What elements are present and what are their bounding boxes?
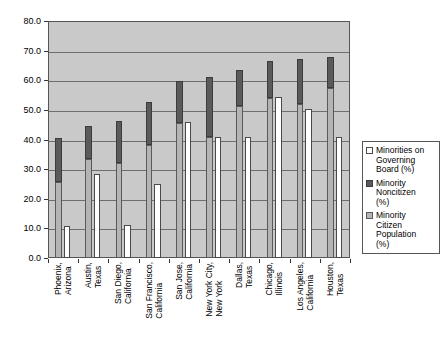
bar-minority-citizen-population (267, 98, 274, 258)
legend-label: Minority Noncitizen (%) (376, 179, 416, 208)
bar-group (229, 21, 259, 258)
y-tick-label: 50.0 (23, 106, 41, 115)
legend-label: Minority Citizen Population (%) (376, 211, 416, 249)
dark-swatch-icon (366, 180, 373, 187)
y-tick-label: 40.0 (23, 136, 41, 145)
bar-minority-noncitizen (206, 77, 213, 137)
bar-minorities-on-governing-board (185, 122, 192, 258)
x-tick-label: San Diego, California (114, 262, 133, 304)
x-tick-mark (320, 259, 321, 263)
bar-group (199, 21, 229, 258)
x-tick-label: Houston, Texas (326, 262, 345, 296)
bar-minority-citizen-population (236, 106, 243, 258)
x-tick-label: Austin, Texas (84, 262, 103, 288)
bar-group (78, 21, 108, 258)
x-tick-mark (229, 259, 230, 263)
bar-minority-noncitizen (176, 81, 183, 123)
legend-label: Minorities on Governing Board (%) (376, 146, 424, 175)
x-tick-mark (169, 259, 170, 263)
bar-minority-citizen-population (55, 182, 62, 258)
bar-minorities-on-governing-board (94, 174, 101, 258)
y-tick-label: 0.0 (28, 254, 41, 263)
gray-swatch-icon (366, 212, 373, 219)
x-tick-label: Phoenix, Arizona (54, 262, 73, 295)
bar-minorities-on-governing-board (275, 97, 282, 258)
x-tick-label: San Jose, California (175, 262, 194, 300)
bar-group (108, 21, 138, 258)
white-swatch-icon (366, 147, 373, 154)
bar-group (320, 21, 350, 258)
y-tick-label: 70.0 (23, 47, 41, 56)
y-tick-label: 30.0 (23, 165, 41, 174)
bar-minorities-on-governing-board (336, 137, 343, 258)
bar-group (48, 21, 78, 258)
x-tick-label: Dallas, Texas (235, 262, 254, 288)
bar-minorities-on-governing-board (154, 184, 161, 258)
bar-minority-citizen-population (327, 88, 334, 258)
x-tick-mark (139, 259, 140, 263)
x-tick-mark (78, 259, 79, 263)
bar-minorities-on-governing-board (124, 225, 131, 258)
y-tick-label: 80.0 (23, 17, 41, 26)
bar-group (290, 21, 320, 258)
x-tick-label: New York City, New York (205, 262, 224, 317)
y-tick-label: 10.0 (23, 224, 41, 233)
x-tick-mark (199, 259, 200, 263)
x-tick-label: San Francisco, California (145, 262, 164, 319)
bar-minority-citizen-population (85, 159, 92, 258)
y-tick-label: 60.0 (23, 76, 41, 85)
chart-legend: Minorities on Governing Board (%)Minorit… (362, 141, 440, 254)
x-axis: Phoenix, ArizonaAustin, TexasSan Diego, … (48, 259, 350, 341)
bar-minority-citizen-population (116, 163, 123, 258)
x-tick-mark (259, 259, 260, 263)
y-axis: 0.010.020.030.040.050.060.070.080.0 (0, 0, 48, 260)
bar-minority-noncitizen (146, 102, 153, 145)
bar-minority-noncitizen (297, 59, 304, 104)
x-tick-mark (48, 259, 49, 263)
bar-chart: 0.010.020.030.040.050.060.070.080.0 Phoe… (0, 0, 443, 341)
y-tick-label: 20.0 (23, 195, 41, 204)
x-tick-label: Los Angeles, California (296, 262, 315, 311)
bar-group (139, 21, 169, 258)
x-tick-label: Chicago, Illinois (265, 262, 284, 296)
bar-minority-citizen-population (297, 104, 304, 258)
bar-group (259, 21, 289, 258)
bar-minorities-on-governing-board (245, 137, 252, 258)
legend-item: Minorities on Governing Board (%) (366, 146, 436, 175)
x-tick-mark (350, 259, 351, 263)
bar-minorities-on-governing-board (64, 226, 71, 258)
bar-minority-citizen-population (146, 145, 153, 258)
bar-minority-noncitizen (267, 61, 274, 98)
bar-minority-noncitizen (327, 57, 334, 88)
legend-item: Minority Noncitizen (%) (366, 179, 436, 208)
bar-minorities-on-governing-board (215, 137, 222, 258)
bar-minority-citizen-population (176, 123, 183, 258)
bar-minority-citizen-population (206, 137, 213, 258)
bars-layer (48, 21, 350, 258)
bar-minority-noncitizen (85, 126, 92, 160)
x-tick-mark (290, 259, 291, 263)
bar-minority-noncitizen (116, 121, 123, 162)
bar-minority-noncitizen (55, 138, 62, 182)
x-tick-mark (108, 259, 109, 263)
bar-minorities-on-governing-board (305, 109, 312, 258)
legend-item: Minority Citizen Population (%) (366, 211, 436, 249)
bar-minority-noncitizen (236, 70, 243, 107)
bar-group (169, 21, 199, 258)
